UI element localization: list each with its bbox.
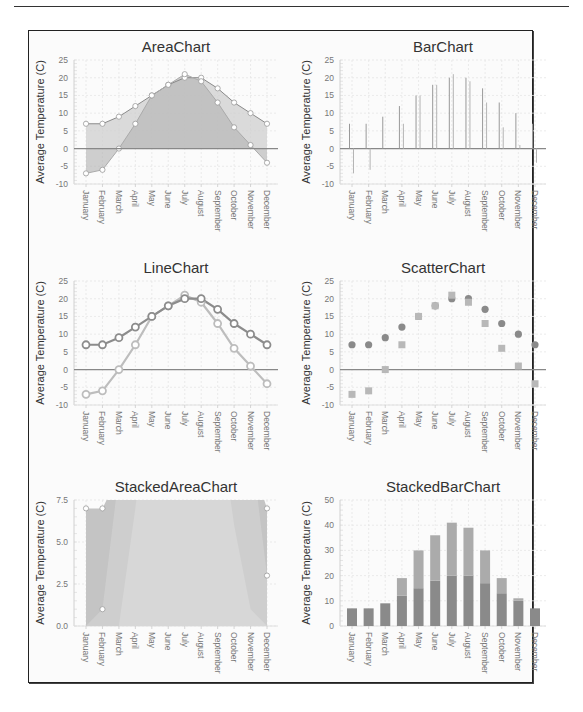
- data-point[interactable]: [100, 506, 105, 511]
- x-tick-label: April: [397, 411, 407, 428]
- x-tick-label: February: [364, 190, 374, 225]
- stacked-bar-series-a[interactable]: [430, 581, 440, 626]
- stacked-bar-series-b[interactable]: [397, 578, 407, 596]
- stacked-bar-series-a[interactable]: [347, 608, 357, 626]
- scatter-point-square[interactable]: [515, 363, 522, 370]
- data-point[interactable]: [148, 313, 155, 320]
- data-point[interactable]: [100, 607, 105, 612]
- data-point[interactable]: [264, 380, 271, 387]
- stacked-bar-series-a[interactable]: [380, 603, 390, 626]
- stacked-bar-series-a[interactable]: [397, 596, 407, 626]
- scatter-point-circle[interactable]: [348, 341, 355, 348]
- y-tick-label: 5: [63, 347, 68, 357]
- scatter-point-circle[interactable]: [382, 334, 389, 341]
- scatter-point-circle[interactable]: [498, 320, 505, 327]
- x-tick-label: September: [480, 411, 490, 453]
- data-point[interactable]: [264, 121, 269, 126]
- data-point[interactable]: [248, 111, 253, 116]
- stacked-bar-series-a[interactable]: [497, 593, 507, 626]
- data-point[interactable]: [231, 125, 236, 130]
- scatter-point-square[interactable]: [498, 345, 505, 352]
- scatter-point-circle[interactable]: [515, 331, 522, 338]
- data-point[interactable]: [133, 121, 138, 126]
- data-point[interactable]: [215, 100, 220, 105]
- stacked-bar-series-a[interactable]: [513, 601, 523, 626]
- data-point[interactable]: [83, 341, 90, 348]
- data-point[interactable]: [247, 331, 254, 338]
- scatter-point-square[interactable]: [349, 391, 356, 398]
- stacked-bar-series-b[interactable]: [463, 528, 473, 576]
- data-point[interactable]: [264, 573, 269, 578]
- data-point[interactable]: [199, 79, 204, 84]
- scatter-point-circle[interactable]: [365, 341, 372, 348]
- stacked-bar-series-b[interactable]: [497, 578, 507, 593]
- data-point[interactable]: [99, 341, 106, 348]
- chart-stackedbar: StackedBarChartAverage Temperature (C)50…: [300, 478, 546, 674]
- data-point[interactable]: [132, 324, 139, 331]
- x-tick-label: August: [463, 411, 473, 438]
- scatter-point-square[interactable]: [415, 313, 422, 320]
- data-point[interactable]: [83, 121, 88, 126]
- scatter-point-square[interactable]: [398, 341, 405, 348]
- scatter-point-square[interactable]: [482, 320, 489, 327]
- data-point[interactable]: [115, 334, 122, 341]
- stacked-bar-series-b[interactable]: [414, 550, 424, 588]
- stacked-bar-series-a[interactable]: [463, 576, 473, 626]
- chart-title: LineChart: [143, 259, 209, 276]
- x-tick-label: July: [447, 411, 457, 427]
- stacked-bar-series-a[interactable]: [530, 608, 540, 626]
- data-point[interactable]: [264, 341, 271, 348]
- charts-canvas: AreaChartAverage Temperature (C)25201510…: [0, 0, 583, 712]
- data-point[interactable]: [100, 121, 105, 126]
- x-tick-label: November: [513, 190, 523, 229]
- scatter-point-circle[interactable]: [481, 306, 488, 313]
- x-tick-label: August: [196, 632, 206, 659]
- stacked-bar-series-a[interactable]: [364, 608, 374, 626]
- data-point[interactable]: [83, 171, 88, 176]
- data-point[interactable]: [83, 506, 88, 511]
- scatter-point-square[interactable]: [432, 302, 439, 309]
- data-point[interactable]: [248, 142, 253, 147]
- y-tick-label: 25: [325, 276, 335, 286]
- data-point[interactable]: [231, 345, 238, 352]
- data-point[interactable]: [132, 341, 139, 348]
- data-point[interactable]: [83, 391, 90, 398]
- data-point[interactable]: [165, 302, 172, 309]
- scatter-point-square[interactable]: [382, 366, 389, 373]
- scatter-point-square[interactable]: [365, 387, 372, 394]
- scatter-point-circle[interactable]: [398, 323, 405, 330]
- data-point[interactable]: [215, 86, 220, 91]
- chart-title: StackedBarChart: [386, 478, 501, 495]
- stacked-bar-series-a[interactable]: [414, 588, 424, 626]
- data-point[interactable]: [231, 100, 236, 105]
- data-point[interactable]: [115, 366, 122, 373]
- data-point[interactable]: [214, 306, 221, 313]
- x-tick-label: August: [196, 411, 206, 438]
- data-point[interactable]: [198, 295, 205, 302]
- data-point[interactable]: [214, 320, 221, 327]
- stacked-bar-series-a[interactable]: [480, 583, 490, 626]
- data-point[interactable]: [100, 167, 105, 172]
- stacked-bar-series-b[interactable]: [513, 598, 523, 601]
- x-tick-label: June: [430, 190, 440, 209]
- data-point[interactable]: [231, 320, 238, 327]
- scatter-point-square[interactable]: [465, 299, 472, 306]
- data-point[interactable]: [264, 160, 269, 165]
- data-point[interactable]: [133, 103, 138, 108]
- data-point[interactable]: [166, 82, 171, 87]
- scatter-point-square[interactable]: [532, 380, 539, 387]
- scatter-point-circle[interactable]: [531, 341, 538, 348]
- data-point[interactable]: [247, 363, 254, 370]
- data-point[interactable]: [116, 114, 121, 119]
- data-point[interactable]: [182, 72, 187, 77]
- data-point[interactable]: [181, 295, 188, 302]
- data-point[interactable]: [264, 506, 269, 511]
- stacked-bar-series-b[interactable]: [430, 535, 440, 580]
- x-tick-label: April: [397, 632, 407, 649]
- stacked-bar-series-b[interactable]: [480, 550, 490, 583]
- stacked-bar-series-b[interactable]: [447, 523, 457, 576]
- stacked-bar-series-a[interactable]: [447, 576, 457, 626]
- scatter-point-square[interactable]: [448, 292, 455, 299]
- data-point[interactable]: [149, 93, 154, 98]
- data-point[interactable]: [99, 387, 106, 394]
